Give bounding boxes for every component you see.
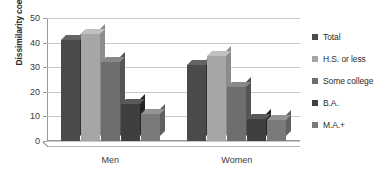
legend-item[interactable]: Total	[312, 26, 383, 48]
bar-slot	[187, 65, 206, 141]
legend-item-label: Some college	[323, 76, 373, 86]
bar-face	[247, 119, 266, 141]
bar-h-s-or-less[interactable]	[81, 34, 100, 141]
bar-face	[227, 87, 246, 141]
bar-slot	[207, 56, 226, 141]
bar-slot	[141, 114, 160, 141]
y-axis-title: Dissimilarity coefficient	[14, 0, 24, 82]
bar-slot	[121, 104, 140, 141]
chart-legend: TotalH.S. or lessSome collegeB.A.M.A.+	[312, 26, 383, 136]
legend-item-label: M.A.+	[323, 120, 345, 130]
y-tick-label: 20	[30, 87, 40, 97]
bar-face	[101, 62, 120, 141]
legend-item[interactable]: Some college	[312, 70, 383, 92]
bar-face	[81, 34, 100, 141]
bar-total[interactable]	[187, 65, 206, 141]
bar-m-a[interactable]	[141, 114, 160, 141]
bar-side	[286, 110, 291, 136]
bar-b-a[interactable]	[247, 119, 266, 141]
bar-face	[267, 120, 286, 141]
legend-item[interactable]: M.A.+	[312, 114, 383, 136]
bar-h-s-or-less[interactable]	[207, 56, 226, 141]
y-tick-label: 0	[35, 136, 40, 146]
x-axis-label: Men	[47, 155, 174, 165]
legend-swatch-icon	[312, 34, 318, 40]
bar-slot	[247, 119, 266, 141]
bar-groups: MenWomen	[47, 18, 300, 141]
legend-swatch-icon	[312, 100, 318, 106]
bar-some-college[interactable]	[101, 62, 120, 141]
bar-face	[61, 40, 80, 141]
bar-face	[207, 56, 226, 141]
bar-face	[141, 114, 160, 141]
legend-item-label: H.S. or less	[323, 54, 366, 64]
chart-floor-edge	[47, 146, 300, 147]
y-tick-label: 50	[30, 13, 40, 23]
bar-b-a[interactable]	[121, 104, 140, 141]
bar-total[interactable]	[61, 40, 80, 141]
legend-swatch-icon	[312, 56, 318, 62]
plot-area: 01020304050 MenWomen	[47, 18, 300, 141]
bar-slot	[61, 40, 80, 141]
bar-chart: Dissimilarity coefficient 01020304050 Me…	[0, 0, 383, 171]
y-tick-label: 30	[30, 62, 40, 72]
legend-swatch-icon	[312, 122, 318, 128]
y-tick-label: 40	[30, 38, 40, 48]
x-axis-label: Women	[174, 155, 301, 165]
y-tick-mark	[43, 141, 47, 142]
bar-m-a[interactable]	[267, 120, 286, 141]
legend-item-label: B.A.	[323, 98, 339, 108]
legend-swatch-icon	[312, 78, 318, 84]
y-tick-label: 10	[30, 111, 40, 121]
bar-slot	[267, 120, 286, 141]
bar-some-college[interactable]	[227, 87, 246, 141]
legend-item[interactable]: B.A.	[312, 92, 383, 114]
bar-slot	[101, 62, 120, 141]
bar-face	[121, 104, 140, 141]
bar-slot	[227, 87, 246, 141]
bar-slot	[81, 34, 100, 141]
bar-face	[187, 65, 206, 141]
legend-item-label: Total	[323, 32, 340, 42]
legend-item[interactable]: H.S. or less	[312, 48, 383, 70]
bar-group-men: Men	[47, 18, 174, 141]
bar-group-women: Women	[174, 18, 301, 141]
gridline	[47, 141, 300, 142]
